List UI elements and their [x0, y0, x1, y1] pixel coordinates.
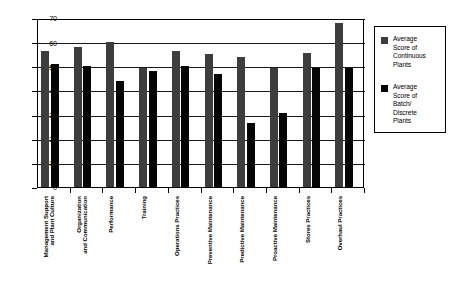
x-axis-category-label: Organizationand Communication	[76, 196, 87, 286]
x-axis-category-label-line: Overhaul Practices	[337, 196, 343, 286]
bar-batch	[279, 113, 287, 187]
x-axis-category-label-line: Operations Practices	[174, 196, 180, 286]
bar-batch	[181, 66, 189, 187]
bar-continuous	[205, 54, 213, 187]
bar-continuous	[172, 51, 180, 187]
x-axis-category-label: Performance	[108, 196, 119, 286]
bar-group	[300, 18, 333, 187]
legend-swatch-icon	[381, 37, 388, 44]
legend-swatch-icon	[381, 85, 388, 92]
bar-group	[267, 18, 300, 187]
bar-continuous	[270, 68, 278, 188]
legend-label-line: Average	[393, 35, 445, 44]
legend-label-line: Score of	[393, 92, 445, 101]
bar-continuous	[41, 51, 49, 187]
bar-group	[38, 18, 71, 187]
x-axis-category-label-line: and Plant Culture	[49, 196, 55, 286]
bar-batch	[83, 66, 91, 187]
bar-chart: 010203040506070 Management Supportand Pl…	[0, 0, 451, 286]
x-axis-category-label-line: Preventive Maintenance	[207, 196, 213, 286]
legend-label-line: Plants	[393, 117, 445, 126]
legend-label: AverageScore ofBatch/DiscretePlants	[393, 83, 445, 126]
x-axis-tick-mark	[331, 188, 332, 193]
x-axis-category-label-line: and Communication	[82, 196, 88, 286]
x-axis-category-label-line: Training	[141, 196, 147, 286]
legend-label-line: Continuous	[393, 52, 445, 61]
bar-continuous	[106, 42, 114, 187]
legend-label-line: Batch/	[393, 100, 445, 109]
bar-continuous	[139, 68, 147, 188]
x-axis-category-label-line: Performance	[108, 196, 114, 286]
bar-continuous	[74, 47, 82, 187]
bar-continuous	[303, 53, 311, 187]
x-axis-tick-mark	[266, 188, 267, 193]
bar-batch	[214, 74, 222, 187]
legend-label-line: Average	[393, 83, 445, 92]
x-axis-tick-mark	[168, 188, 169, 193]
x-axis-tick-mark	[70, 188, 71, 193]
bar-batch	[247, 123, 255, 187]
x-axis-category-label: Management Supportand Plant Culture	[43, 196, 54, 286]
x-axis-tick-mark	[233, 188, 234, 193]
x-axis-category-label: Proactive Maintenance	[272, 196, 283, 286]
legend-label-line: Score of	[393, 44, 445, 53]
x-axis-category-label-line: Proactive Maintenance	[272, 196, 278, 286]
bar-batch	[345, 68, 353, 188]
x-axis-category-label: Preventive Maintenance	[207, 196, 218, 286]
legend-label: AverageScore ofContinuousPlants	[393, 35, 445, 69]
x-axis-category-label: Training	[141, 196, 152, 286]
x-axis-category-label: Overhaul Practices	[337, 196, 348, 286]
x-axis-tick-mark	[364, 188, 365, 193]
x-axis-tick-mark	[102, 188, 103, 193]
legend-label-line: Plants	[393, 61, 445, 70]
bar-group	[71, 18, 104, 187]
x-axis-tick-mark	[201, 188, 202, 193]
bar-batch	[312, 68, 320, 188]
x-axis-tick-mark	[299, 188, 300, 193]
legend-label-line: Discrete	[393, 109, 445, 118]
plot-area	[37, 19, 364, 188]
x-axis-category-label-line: Predictive Maintenance	[239, 196, 245, 286]
bar-continuous	[335, 23, 343, 187]
bar-batch	[149, 71, 157, 187]
bar-continuous	[237, 57, 245, 187]
bar-group	[234, 18, 267, 187]
x-axis-tick-mark	[135, 188, 136, 193]
bar-batch	[51, 64, 59, 187]
bar-batch	[116, 81, 124, 187]
bar-group	[136, 18, 169, 187]
bar-group	[332, 18, 365, 187]
bar-group	[202, 18, 235, 187]
x-axis-category-label: Operations Practices	[174, 196, 185, 286]
bar-group	[103, 18, 136, 187]
x-axis-category-label-line: Stores Practices	[305, 196, 311, 286]
x-axis-category-label: Predictive Maintenance	[239, 196, 250, 286]
bar-group	[169, 18, 202, 187]
chart-legend: AverageScore ofContinuousPlantsAverageSc…	[374, 26, 446, 133]
x-axis-category-label: Stores Practices	[305, 196, 316, 286]
